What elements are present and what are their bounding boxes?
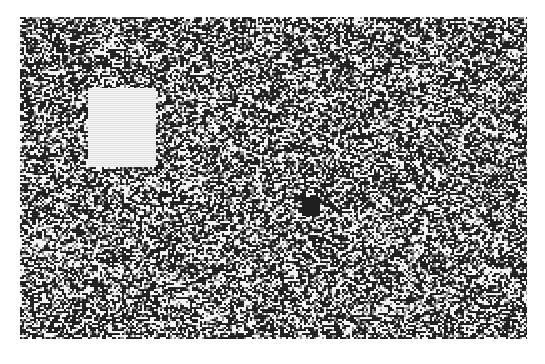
noise-field-image (20, 17, 527, 339)
figure (0, 0, 545, 364)
cropped-caption (0, 352, 545, 364)
dark-square-target (302, 197, 320, 216)
light-square-target (88, 88, 156, 167)
